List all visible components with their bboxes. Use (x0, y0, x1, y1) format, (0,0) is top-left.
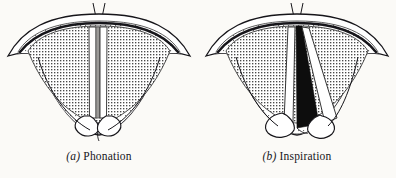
epiglottis-notch-ticks-phonation (93, 3, 105, 15)
figure-caption-phonation: (a)Phonation (0, 150, 198, 162)
arytenoid-left-phonation (75, 116, 98, 136)
figure-panel-inspiration: (b)Inspiration (198, 0, 396, 178)
larynx-diagram-inspiration (198, 0, 396, 150)
figure-caption-inspiration: (b)Inspiration (198, 150, 396, 162)
larynx-diagram-phonation (0, 0, 198, 150)
glottis-closed-slit-phonation (96, 27, 100, 118)
vocal-fold-left-phonation (89, 27, 96, 118)
caption-label-phonation: Phonation (83, 150, 131, 162)
caption-enumerator-inspiration: (b) (262, 150, 276, 162)
arytenoid-right-phonation (97, 116, 120, 136)
figure-panel-phonation: (a)Phonation (0, 0, 198, 178)
caption-label-inspiration: Inspiration (279, 150, 331, 162)
epiglottis-notch-ticks-inspiration (291, 3, 303, 15)
vocal-fold-right-phonation (100, 27, 107, 118)
vocal-fold-figure-sheet: (a)Phonation (0, 0, 396, 178)
caption-enumerator-phonation: (a) (66, 150, 80, 162)
